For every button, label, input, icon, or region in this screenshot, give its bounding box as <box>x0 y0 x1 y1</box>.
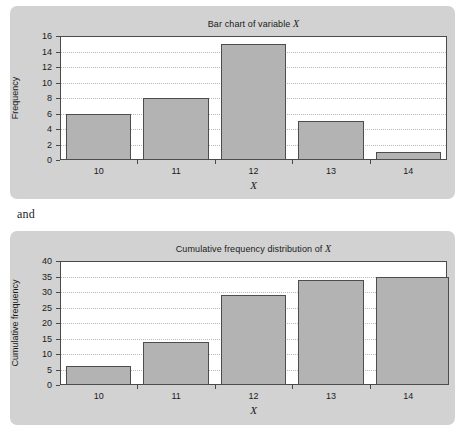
bar-chart-card: Bar chart of variable X 0246810121416101… <box>10 6 455 199</box>
x-tick-label: 10 <box>79 166 119 176</box>
y-tick-label: 16 <box>34 32 52 40</box>
x-tick-label: 11 <box>156 166 196 176</box>
x-tick-mark <box>137 160 138 164</box>
bar <box>298 280 363 385</box>
x-tick-mark <box>215 160 216 164</box>
y-tick-mark <box>56 145 60 146</box>
x-tick-mark <box>215 385 216 389</box>
x-tick-mark <box>370 160 371 164</box>
y-tick-label: 25 <box>34 304 52 312</box>
y-tick-label: 10 <box>34 350 52 358</box>
y-tick-mark <box>56 83 60 84</box>
cumulative-chart-card: Cumulative frequency distribution of X 0… <box>10 231 455 425</box>
y-tick-label: 15 <box>34 335 52 343</box>
y-tick-mark <box>56 339 60 340</box>
bar <box>376 277 449 386</box>
x-axis-label-2: X <box>60 404 447 416</box>
x-tick-mark <box>292 160 293 164</box>
bar <box>376 152 441 160</box>
x-tick-mark <box>137 385 138 389</box>
y-tick-label: 0 <box>34 381 52 389</box>
y-tick-label: 14 <box>34 48 52 56</box>
y-tick-label: 4 <box>34 125 52 133</box>
y-tick-label: 6 <box>34 110 52 118</box>
chart-title-2: Cumulative frequency distribution of X <box>60 243 447 254</box>
y-tick-mark <box>56 308 60 309</box>
x-tick-label: 14 <box>388 166 428 176</box>
bar <box>66 114 131 161</box>
bar <box>66 366 131 385</box>
y-tick-mark <box>56 277 60 278</box>
y-tick-label: 0 <box>34 156 52 164</box>
y-tick-mark <box>56 67 60 68</box>
y-tick-mark <box>56 36 60 37</box>
x-tick-label: 13 <box>311 391 351 401</box>
y-tick-label: 30 <box>34 288 52 296</box>
y-tick-mark <box>56 98 60 99</box>
y-tick-label: 35 <box>34 273 52 281</box>
bar <box>221 295 286 385</box>
x-tick-label: 12 <box>234 166 274 176</box>
x-tick-mark <box>292 385 293 389</box>
x-tick-label: 13 <box>311 166 351 176</box>
y-tick-mark <box>56 354 60 355</box>
y-tick-mark <box>56 160 60 161</box>
y-tick-mark <box>56 370 60 371</box>
y-tick-label: 2 <box>34 141 52 149</box>
y-tick-mark <box>56 129 60 130</box>
y-tick-label: 40 <box>34 257 52 265</box>
bar <box>221 44 286 160</box>
figure-page: Bar chart of variable X 0246810121416101… <box>0 0 467 447</box>
chart-title-1: Bar chart of variable X <box>60 18 447 29</box>
x-axis-label-1: X <box>60 179 447 191</box>
y-tick-label: 10 <box>34 79 52 87</box>
bar <box>143 98 208 160</box>
x-tick-label: 10 <box>79 391 119 401</box>
y-tick-label: 5 <box>34 366 52 374</box>
y-tick-mark <box>56 114 60 115</box>
bar <box>143 342 208 385</box>
y-tick-mark <box>56 52 60 53</box>
y-axis-label-1: Frequency <box>10 77 20 120</box>
between-charts-text: and <box>17 207 35 222</box>
y-axis-label-2: Cumulative frequency <box>10 279 20 366</box>
x-tick-label: 11 <box>156 391 196 401</box>
y-tick-mark <box>56 261 60 262</box>
x-tick-mark <box>370 385 371 389</box>
y-tick-label: 8 <box>34 94 52 102</box>
y-tick-mark <box>56 292 60 293</box>
x-tick-label: 12 <box>234 391 274 401</box>
bar <box>298 121 363 160</box>
y-tick-label: 12 <box>34 63 52 71</box>
y-tick-mark <box>56 385 60 386</box>
x-tick-label: 14 <box>388 391 428 401</box>
y-tick-mark <box>56 323 60 324</box>
y-tick-label: 20 <box>34 319 52 327</box>
